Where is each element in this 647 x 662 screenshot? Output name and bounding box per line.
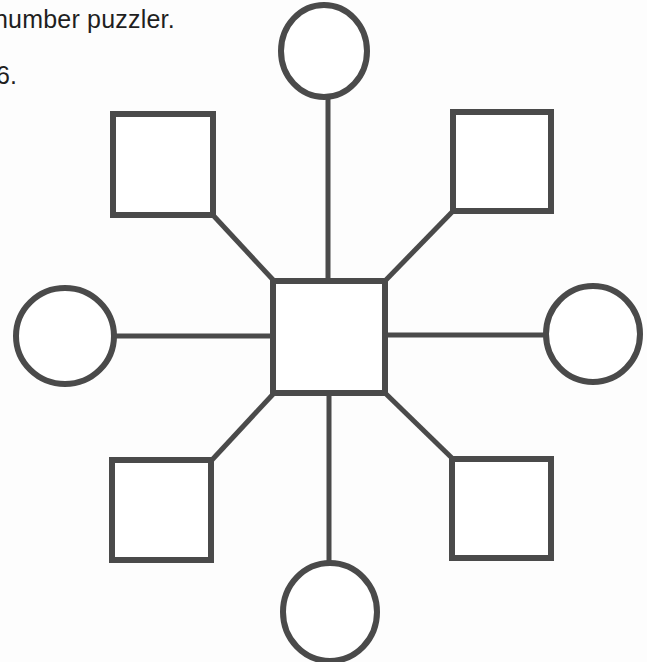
worksheet-page: number puzzler. 6. [0,0,647,662]
node-circle-left[interactable] [16,288,114,384]
spoke-top-right-line [383,209,455,283]
node-circle-right[interactable] [546,286,640,382]
node-square-bottom-right[interactable] [452,459,551,558]
node-center-square[interactable] [273,281,385,393]
spoke-bottom-left-line [211,391,276,461]
spoke-bottom-right-line [383,391,455,461]
node-square-top-right[interactable] [453,112,551,211]
node-square-bottom-left[interactable] [112,460,211,560]
spoke-top-left-line [211,213,276,283]
number-puzzler-diagram [0,0,647,662]
node-square-top-left[interactable] [113,114,213,215]
node-circle-top[interactable] [281,5,367,97]
node-circle-bottom[interactable] [283,563,377,661]
